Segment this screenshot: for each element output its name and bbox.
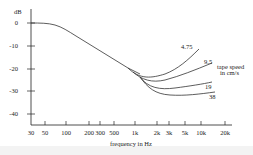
x-tick-label: 2k: [154, 129, 161, 136]
y-tick-label: -30: [0, 87, 18, 94]
x-tick-label: 500: [109, 129, 119, 136]
y-axis-label: dB: [14, 8, 22, 15]
x-tick-label: 10k: [196, 129, 206, 136]
x-tick-label: 200: [84, 129, 94, 136]
y-tick-label: -40: [0, 110, 18, 117]
series-label-4.75: 4.75: [181, 43, 192, 50]
series-label-38: 38: [209, 93, 216, 100]
x-tick-label: 50: [42, 129, 49, 136]
x-tick-label: 3k: [166, 129, 173, 136]
y-tick-label: -10: [0, 42, 18, 49]
x-tick-label: 1k: [132, 129, 139, 136]
y-tick-label: -20: [0, 65, 18, 72]
x-tick-label: 100: [61, 129, 71, 136]
x-ticks: [45, 121, 225, 125]
curve-19: [140, 77, 212, 89]
x-tick-label: 20k: [220, 129, 230, 136]
series-label-19: 19: [205, 83, 212, 90]
y-tick-label: 0: [0, 19, 18, 26]
legend-title-line2: in cm/s: [220, 69, 239, 76]
x-tick-label: 30: [28, 129, 35, 136]
x-axis-label: frequency in Hz: [110, 140, 152, 147]
x-tick-label: 300: [95, 129, 105, 136]
series-label-9.5: 9.5: [204, 58, 212, 65]
x-tick-label: 5k: [182, 129, 189, 136]
curve-9.5: [133, 63, 212, 81]
frequency-response-chart: [0, 0, 253, 155]
curve-common: [31, 23, 140, 74]
